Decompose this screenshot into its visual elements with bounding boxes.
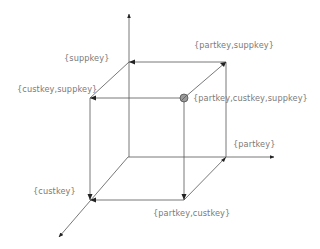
label-partkey: {partkey} — [233, 139, 275, 149]
custkey-axis — [59, 157, 128, 237]
label-suppkey: {suppkey} — [64, 53, 110, 63]
label-partkey-custkey: {partkey,custkey} — [153, 208, 230, 218]
label-custkey-suppkey: {custkey,suppkey} — [17, 84, 97, 94]
data-cube-diagram: {suppkey} {partkey,suppkey} {custkey,sup… — [0, 0, 320, 249]
label-partkey-suppkey: {partkey,suppkey} — [194, 40, 274, 50]
label-custkey: {custkey} — [33, 186, 76, 196]
edge-partkey-to-partkey-custkey — [184, 157, 226, 200]
label-partkey-custkey-suppkey: {partkey,custkey,suppkey} — [193, 93, 308, 103]
